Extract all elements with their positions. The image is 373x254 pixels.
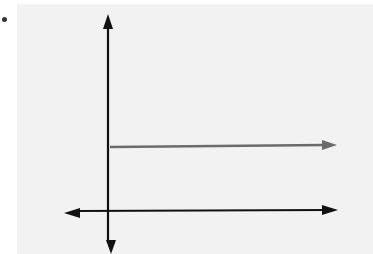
y-axis <box>103 14 116 254</box>
arrow-right-icon <box>322 140 337 150</box>
x-axis <box>64 205 338 218</box>
horizontal-ray <box>110 140 337 150</box>
arrow-down-icon <box>106 240 116 254</box>
diagram-figure <box>0 0 373 254</box>
arrow-right-icon <box>322 205 338 215</box>
arrow-left-icon <box>64 208 80 218</box>
arrow-up-icon <box>103 14 113 29</box>
coordinate-plane <box>0 0 373 254</box>
